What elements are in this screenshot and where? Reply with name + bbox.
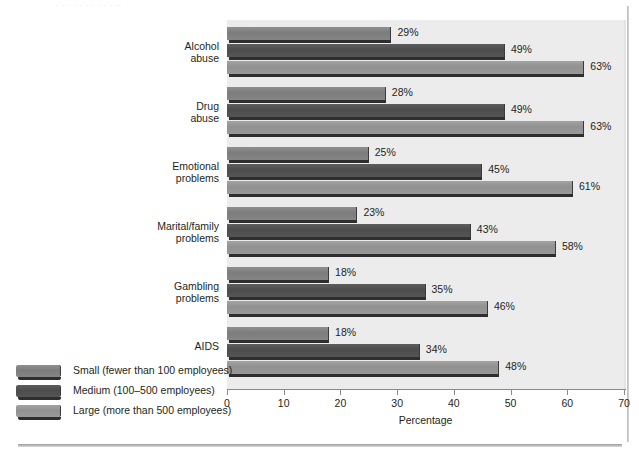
legend-label-medium: Medium (100–500 employees) xyxy=(73,384,215,396)
bar-m[interactable] xyxy=(227,44,505,57)
bar-value-label: 46% xyxy=(494,300,515,312)
x-tick xyxy=(397,389,398,395)
legend-swatch-medium-icon xyxy=(16,385,61,397)
bar-s[interactable] xyxy=(227,147,369,160)
x-axis-line xyxy=(227,389,626,390)
bar-l[interactable] xyxy=(227,121,584,134)
bar-l[interactable] xyxy=(227,301,488,314)
page-bottom-rule xyxy=(18,444,622,447)
bar-l[interactable] xyxy=(227,361,499,374)
x-tick-label: 30 xyxy=(391,397,403,409)
bar-l[interactable] xyxy=(227,181,573,194)
bar-l[interactable] xyxy=(227,241,556,254)
bar-value-label: 63% xyxy=(590,120,611,132)
bar-value-label: 58% xyxy=(562,240,583,252)
x-tick xyxy=(227,389,228,395)
bar-value-label: 63% xyxy=(590,60,611,72)
x-tick-label: 70 xyxy=(618,397,630,409)
clipped-header-text: · · · · · · · · · · ·· xyxy=(0,0,639,9)
bar-value-label: 34% xyxy=(426,343,447,355)
legend-swatch-large-icon xyxy=(16,405,61,417)
x-tick xyxy=(454,389,455,395)
legend-swatch-small-icon xyxy=(16,365,61,377)
category-label: AIDS xyxy=(69,341,219,353)
bar-s[interactable] xyxy=(227,87,386,100)
x-tick xyxy=(511,389,512,395)
x-tick-label: 50 xyxy=(505,397,517,409)
bar-value-label: 43% xyxy=(477,223,498,235)
legend-label-small: Small (fewer than 100 employees) xyxy=(73,364,232,376)
x-tick xyxy=(284,389,285,395)
bar-value-label: 61% xyxy=(579,180,600,192)
bar-value-label: 48% xyxy=(505,360,526,372)
bar-s[interactable] xyxy=(227,27,391,40)
bar-s[interactable] xyxy=(227,207,357,220)
bar-value-label: 25% xyxy=(375,146,396,158)
bar-m[interactable] xyxy=(227,284,426,297)
x-tick-label: 10 xyxy=(278,397,290,409)
x-tick xyxy=(340,389,341,395)
bar-s[interactable] xyxy=(227,267,329,280)
category-label: Drug abuse xyxy=(69,101,219,124)
bar-l[interactable] xyxy=(227,61,584,74)
bar-m[interactable] xyxy=(227,344,420,357)
bar-s[interactable] xyxy=(227,327,329,340)
x-tick-label: 20 xyxy=(335,397,347,409)
plot-right-edge xyxy=(624,20,626,389)
category-label: Emotional problems xyxy=(69,161,219,184)
category-label: Marital/family problems xyxy=(69,221,219,244)
bar-value-label: 28% xyxy=(392,86,413,98)
bar-value-label: 29% xyxy=(397,26,418,38)
bar-value-label: 23% xyxy=(363,206,384,218)
bar-value-label: 35% xyxy=(432,283,453,295)
category-label: Gambling problems xyxy=(69,281,219,304)
x-tick-label: 40 xyxy=(448,397,460,409)
bar-value-label: 49% xyxy=(511,103,532,115)
bar-value-label: 18% xyxy=(335,266,356,278)
x-tick xyxy=(624,389,625,395)
bar-m[interactable] xyxy=(227,164,482,177)
x-tick-label: 60 xyxy=(561,397,573,409)
legend-label-large: Large (more than 500 employees) xyxy=(73,404,231,416)
x-tick xyxy=(567,389,568,395)
bar-value-label: 18% xyxy=(335,326,356,338)
bar-m[interactable] xyxy=(227,104,505,117)
x-axis-title: Percentage xyxy=(227,414,624,426)
category-label: Alcohol abuse xyxy=(69,41,219,64)
bar-value-label: 49% xyxy=(511,43,532,55)
bar-value-label: 45% xyxy=(488,163,509,175)
bar-m[interactable] xyxy=(227,224,471,237)
